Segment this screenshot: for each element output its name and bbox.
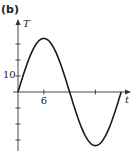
y-axis-arrow-icon (16, 19, 21, 25)
y-axis-label: T (23, 19, 30, 29)
y-tick-label: 10 (3, 70, 16, 80)
chart-plot-area (0, 0, 131, 164)
axes (13, 19, 131, 151)
x-tick-label: 6 (41, 96, 47, 106)
x-axis-label: t (125, 95, 129, 105)
